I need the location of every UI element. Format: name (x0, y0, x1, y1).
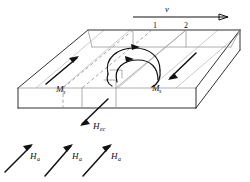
exchange-field-arrowhead-icon (80, 119, 90, 126)
figure-root: v 1 2 (0, 0, 250, 182)
applied-field-item-2: H a (45, 144, 82, 176)
applied-field-subscript-3: a (118, 156, 121, 162)
applied-field-item-1: H a (5, 144, 40, 172)
exchange-field-subscript: ec (100, 126, 106, 132)
velocity-label: v (165, 4, 169, 14)
applied-field-subscript-1: a (37, 156, 40, 162)
applied-field-label-1: H (29, 151, 37, 161)
velocity-axis-group: v 1 2 (133, 4, 228, 30)
velocity-marker-1: 1 (153, 21, 157, 30)
applied-field-subscript-2: a (79, 156, 82, 162)
slab-front-face (18, 88, 196, 108)
applied-field-label-2: H (71, 151, 79, 161)
velocity-marker-2: 2 (184, 21, 188, 30)
applied-field-group: H a H a H a (5, 144, 121, 176)
exchange-field-label: H (92, 121, 100, 131)
applied-field-item-3: H a (83, 144, 121, 176)
applied-field-label-3: H (110, 151, 118, 161)
domain-wall-diagram: v 1 2 (0, 0, 250, 182)
slab-group (18, 30, 240, 108)
